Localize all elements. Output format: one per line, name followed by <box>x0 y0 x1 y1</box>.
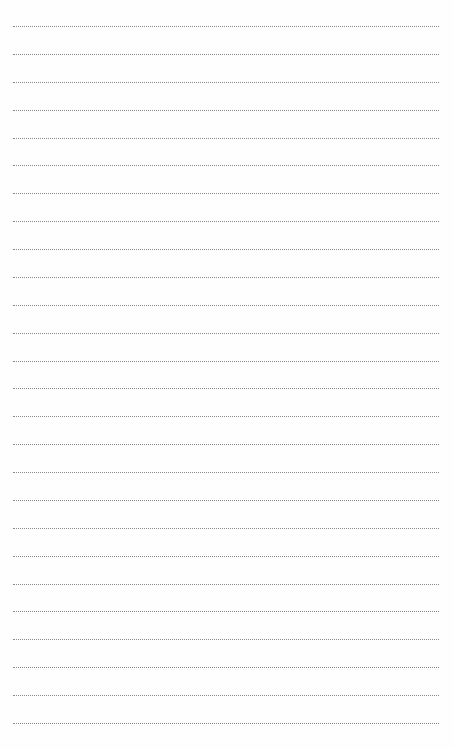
ruled-line <box>13 221 439 222</box>
ruled-line <box>13 193 439 194</box>
ruled-line <box>13 416 439 417</box>
ruled-line <box>13 82 439 83</box>
ruled-line <box>13 361 439 362</box>
ruled-line <box>13 138 439 139</box>
ruled-line <box>13 388 439 389</box>
ruled-line <box>13 667 439 668</box>
ruled-line <box>13 277 439 278</box>
ruled-line <box>13 528 439 529</box>
ruled-line <box>13 26 439 27</box>
ruled-line <box>13 333 439 334</box>
ruled-line <box>13 444 439 445</box>
ruled-line <box>13 54 439 55</box>
ruled-line <box>13 723 439 724</box>
ruled-line <box>13 110 439 111</box>
lined-paper-page <box>0 0 454 749</box>
ruled-line <box>13 165 439 166</box>
ruled-line <box>13 500 439 501</box>
ruled-line <box>13 556 439 557</box>
ruled-line <box>13 611 439 612</box>
ruled-line <box>13 695 439 696</box>
ruled-line <box>13 249 439 250</box>
ruled-line <box>13 305 439 306</box>
ruled-line <box>13 639 439 640</box>
ruled-line <box>13 584 439 585</box>
ruled-line <box>13 472 439 473</box>
